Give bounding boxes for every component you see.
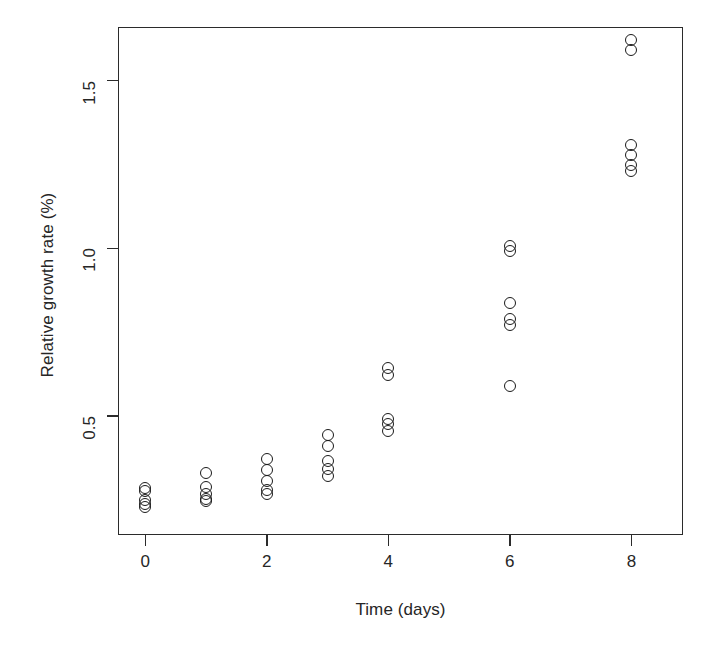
x-axis-tick — [388, 535, 390, 546]
x-axis-title: Time (days) — [118, 600, 683, 620]
x-axis-tick — [631, 535, 633, 546]
x-axis-tick-label: 4 — [368, 552, 408, 572]
y-axis-tick-label: 1.0 — [79, 248, 101, 348]
plot-area — [118, 27, 683, 535]
y-axis-tick-label-wrap: 0.5 — [0, 405, 90, 427]
data-point — [322, 470, 334, 482]
data-point — [382, 425, 394, 437]
x-axis-tick — [266, 535, 268, 546]
x-axis-tick — [509, 535, 511, 546]
data-point — [322, 440, 334, 452]
x-axis-tick-label: 8 — [611, 552, 651, 572]
x-axis-tick-label: 2 — [247, 552, 287, 572]
x-axis-tick-label: 0 — [125, 552, 165, 572]
x-axis-tick-label: 6 — [490, 552, 530, 572]
x-axis-tick — [145, 535, 147, 546]
data-point — [200, 467, 212, 479]
y-axis-tick-label-wrap: 1.5 — [0, 70, 90, 92]
y-axis-tick-label: 0.5 — [79, 416, 101, 516]
y-axis-tick — [107, 248, 118, 250]
data-point — [504, 245, 516, 257]
data-point — [261, 488, 273, 500]
y-axis-tick-label-wrap: 1.0 — [0, 237, 90, 259]
y-axis-tick-label: 1.5 — [79, 81, 101, 181]
y-axis-tick — [107, 415, 118, 417]
data-point — [261, 464, 273, 476]
y-axis-tick — [107, 80, 118, 82]
scatter-plot-figure: Relative growth rate (%) 02468 0.51.01.5… — [0, 0, 717, 652]
